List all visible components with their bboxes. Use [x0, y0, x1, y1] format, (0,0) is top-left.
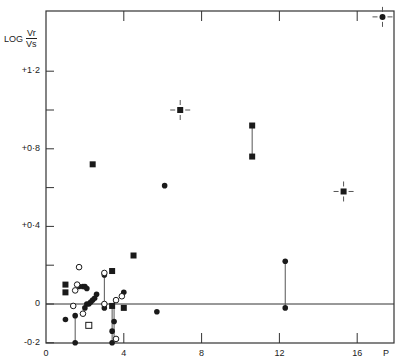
point-open-square: [86, 322, 92, 328]
axis-ticks: [46, 11, 357, 343]
point-open-circle: [76, 264, 82, 270]
point-circle-with-cross: [379, 14, 385, 20]
y-tick-label: +0·4: [4, 220, 40, 230]
y-axis-title-fraction: Vr Vs: [26, 28, 37, 49]
point-filled-square: [109, 268, 115, 274]
point-filled-square: [62, 282, 68, 288]
point-open-circle: [74, 282, 80, 288]
point-filled-circle: [282, 305, 288, 311]
point-filled-circle: [94, 292, 100, 298]
x-tick-label: 0: [36, 348, 56, 358]
point-open-circle: [70, 303, 76, 309]
point-open-circle: [72, 288, 78, 294]
x-tick-label: 16: [347, 348, 367, 358]
scatter-plot: [0, 0, 406, 362]
point-filled-square: [121, 305, 127, 311]
point-open-circle: [102, 270, 108, 276]
y-tick-label: 0: [4, 298, 40, 308]
point-open-circle: [102, 301, 108, 307]
point-filled-circle: [72, 340, 78, 346]
point-filled-square: [249, 154, 255, 160]
point-filled-circle: [84, 286, 90, 292]
point-square-with-cross: [177, 107, 183, 113]
point-filled-circle: [162, 183, 168, 189]
point-open-circle: [80, 311, 86, 317]
point-filled-circle: [282, 259, 288, 265]
point-square-with-cross: [341, 188, 347, 194]
point-filled-circle: [109, 328, 115, 334]
y-tick-label: -0·2: [4, 337, 40, 347]
x-axis-title: P: [383, 348, 389, 358]
point-filled-circle: [63, 317, 69, 323]
data-points: [62, 7, 392, 346]
point-open-circle: [119, 293, 125, 299]
point-filled-circle: [111, 319, 117, 325]
y-axis-title-denominator: Vs: [26, 39, 37, 49]
point-filled-circle: [154, 309, 160, 315]
y-tick-label: +1·2: [4, 65, 40, 75]
y-axis-title: LOG Vr Vs: [4, 28, 37, 49]
point-filled-square: [131, 253, 137, 259]
x-tick-label: 4: [114, 348, 134, 358]
point-open-circle: [113, 336, 119, 342]
y-axis-title-numerator: Vr: [26, 28, 37, 39]
point-filled-square: [249, 123, 255, 129]
y-axis-title-prefix: LOG: [4, 34, 23, 44]
point-filled-square: [62, 289, 68, 295]
point-filled-square: [90, 161, 96, 167]
point-open-circle: [113, 297, 119, 303]
x-tick-label: 12: [269, 348, 289, 358]
y-tick-label: +0·8: [4, 143, 40, 153]
x-tick-label: 8: [192, 348, 212, 358]
point-filled-circle: [72, 313, 78, 319]
point-filled-square: [109, 303, 115, 309]
